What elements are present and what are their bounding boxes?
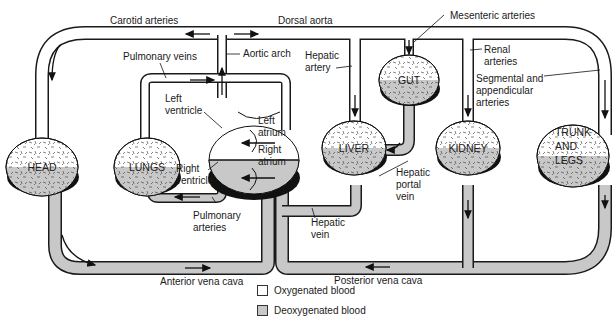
legend-item-oxygenated: Oxygenated blood [257,280,366,300]
label-mesenteric-arteries: Mesenteric arteries [450,10,535,21]
label-right-atrium: Right [258,144,282,155]
organ-label-lungs: LUNGS [129,161,165,173]
label-pulmonary-veins: Pulmonary veins [123,51,197,62]
organ-label-head: HEAD [27,161,57,173]
organ-label-legs: LEGS [555,154,583,166]
organ-trunk-and-legs: TRUNK AND LEGS [537,125,610,187]
label-hepatic-artery-2: artery [305,62,331,73]
label-renal-arteries: Renal [484,44,510,55]
organ-label-kidney: KIDNEY [448,142,487,154]
organ-label-gut: GUT [398,74,421,86]
label-segmental: Segmental and [476,73,543,84]
legend: Oxygenated blood Deoxygenated blood [257,280,366,320]
label-hepatic-portal-2: portal [396,179,421,190]
organ-label-liver: LIVER [339,142,370,154]
label-pulmonary-arteries: Pulmonary [193,210,241,221]
legend-label-deoxygenated: Deoxygenated blood [274,305,366,316]
label-right-atrium-2: atrium [258,156,286,167]
organ-gut: GUT [379,55,440,106]
label-dorsal-aorta: Dorsal aorta [278,15,333,26]
label-left-atrium-2: atrium [258,127,286,138]
circulation-diagram: HEAD LUNGS LIVER GUT KID [0,0,616,323]
label-hepatic-portal-3: vein [396,191,414,202]
swatch-deoxygenated [257,305,268,316]
organ-kidney: KIDNEY [436,121,501,175]
label-anterior-vena-cava: Anterior vena cava [160,276,244,287]
label-segmental-2: appendicular [476,85,534,96]
organ-label-and: AND [555,140,578,152]
label-right-ventricle-2: ventricle [176,175,214,186]
legend-label-oxygenated: Oxygenated blood [274,285,355,296]
label-renal-arteries-2: arteries [484,56,517,67]
label-hepatic-vein: Hepatic [311,217,345,228]
organ-label-trunk: TRUNK [555,126,591,138]
organ-head: HEAD [6,138,79,196]
label-left-ventricle-2: ventricle [165,105,203,116]
label-hepatic-artery: Hepatic [305,50,339,61]
swatch-oxygenated [257,285,268,296]
legend-item-deoxygenated: Deoxygenated blood [257,300,366,320]
organ-liver: LIVER [322,121,387,175]
label-segmental-3: arteries [476,97,509,108]
label-hepatic-vein-2: vein [311,229,329,240]
label-right-ventricle: Right [176,163,200,174]
label-hepatic-portal: Hepatic [396,167,430,178]
label-left-atrium: Left [258,115,275,126]
label-left-ventricle: Left [165,93,182,104]
label-carotid-arteries: Carotid arteries [110,15,178,26]
label-pulmonary-arteries-2: arteries [193,222,226,233]
label-aortic-arch: Aortic arch [243,48,291,59]
organ-lungs: LUNGS [114,138,181,196]
